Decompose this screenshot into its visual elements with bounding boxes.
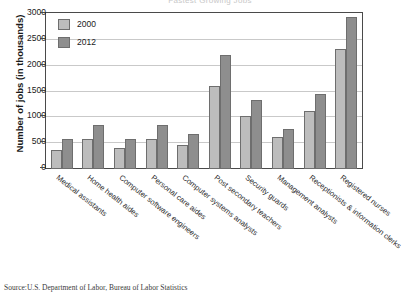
y-tick-mark <box>40 12 45 13</box>
y-tick-mark <box>40 38 45 39</box>
legend-label-2000: 2000 <box>77 20 96 29</box>
bar-2012 <box>251 100 262 169</box>
x-axis-label: Personal care aides <box>149 173 207 221</box>
legend-swatch-icon-2012 <box>58 37 70 48</box>
x-axis-labels: Medical assistantsHome health aidesCompu… <box>0 169 372 274</box>
bar-2000 <box>82 139 93 169</box>
bar-2012 <box>346 17 357 169</box>
bar-2000 <box>209 86 220 169</box>
bar-group <box>272 13 294 169</box>
bar-2012 <box>188 134 199 169</box>
source-note: Source:U.S. Department of Labor, Bureau … <box>4 283 187 292</box>
bar-group <box>304 13 326 169</box>
bar-2000 <box>146 139 157 169</box>
bar-group <box>146 13 168 169</box>
chart-title: Fastest Growing Jobs <box>120 0 300 5</box>
bar-2012 <box>93 125 104 169</box>
legend-item-2012: 2012 <box>58 37 96 48</box>
y-tick-mark <box>40 167 45 168</box>
bar-2000 <box>335 49 346 169</box>
bar-2000 <box>51 150 62 169</box>
legend-swatch-icon-2000 <box>58 19 70 30</box>
bar-group <box>335 13 357 169</box>
y-tick-mark <box>40 64 45 65</box>
bar-group <box>240 13 262 169</box>
bar-2012 <box>157 125 168 169</box>
bar-2000 <box>304 111 315 169</box>
chart-legend: 2000 2012 <box>58 19 96 55</box>
bar-group <box>177 13 199 169</box>
bar-2012 <box>283 129 294 169</box>
bar-2000 <box>177 145 188 169</box>
bar-2012 <box>220 55 231 169</box>
y-tick-mark <box>40 141 45 142</box>
bar-group <box>114 13 136 169</box>
bar-2000 <box>240 116 251 169</box>
bar-2012 <box>315 94 326 169</box>
bar-group <box>209 13 231 169</box>
legend-label-2012: 2012 <box>77 38 96 47</box>
bar-2000 <box>114 148 125 169</box>
y-tick-mark <box>40 115 45 116</box>
bar-2012 <box>125 139 136 169</box>
legend-item-2000: 2000 <box>58 19 96 30</box>
y-tick-mark <box>40 90 45 91</box>
x-axis-label: Management analysts <box>275 173 339 226</box>
bar-2012 <box>62 139 73 169</box>
bar-2000 <box>272 137 283 169</box>
